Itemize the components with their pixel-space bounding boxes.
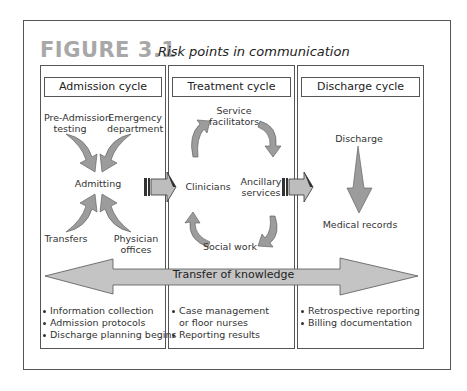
node-emergency-department: Emergencydepartment <box>107 112 163 134</box>
node-medical-records: Medical records <box>322 219 398 230</box>
node-transfers: Transfers <box>44 233 88 244</box>
node-social-work: Social work <box>202 241 258 252</box>
node-ancillary-services: Ancillaryservices <box>236 176 286 198</box>
node-service-facilitators: Servicefacilitators <box>206 105 262 127</box>
arrow-transfers-icon <box>66 194 97 232</box>
arrow-physician-icon <box>100 194 131 232</box>
admission-bullets: Information collection Admission protoco… <box>43 305 176 341</box>
bullet-item: Information collection <box>43 305 176 317</box>
node-pre-admission-testing: Pre-Admissiontesting <box>44 112 96 134</box>
arrow-pretesting-icon <box>66 134 97 172</box>
treatment-bullets: Case management or floor nurses Reportin… <box>172 305 269 341</box>
arrow-emergency-icon <box>100 134 131 172</box>
bullet-item: Discharge planning begins <box>43 329 176 341</box>
bullet-item: Billing documentation <box>301 317 420 329</box>
node-physician-offices: Physicianoffices <box>113 233 159 255</box>
bullet-item: Case management <box>172 305 269 317</box>
node-discharge: Discharge <box>330 133 388 144</box>
discharge-bullets: Retrospective reporting Billing document… <box>301 305 420 329</box>
block-arrow-treatment-to-discharge <box>282 172 313 202</box>
bullet-item-continuation: or floor nurses <box>172 317 269 329</box>
bullet-item: Retrospective reporting <box>301 305 420 317</box>
discharge-down-arrow-icon <box>347 146 372 213</box>
block-arrow-admission-to-treatment <box>144 172 176 202</box>
node-admitting: Admitting <box>70 178 126 189</box>
bullet-item: Admission protocols <box>43 317 176 329</box>
arrow-cycle-lower-right-icon <box>258 216 277 247</box>
transfer-of-knowledge-label: Transfer of knowledge <box>0 268 467 281</box>
bullet-item: Reporting results <box>172 329 269 341</box>
node-clinicians: Clinicians <box>180 181 236 192</box>
